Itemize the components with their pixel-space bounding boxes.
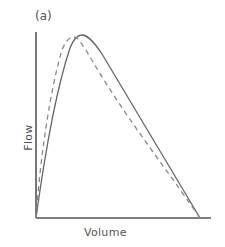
solid-curve — [36, 35, 200, 218]
dashed-curve — [36, 37, 200, 218]
panel-label: (a) — [35, 9, 52, 23]
x-axis-label: Volume — [84, 226, 127, 239]
y-axis-label: Flow — [22, 118, 35, 158]
flow-volume-chart: (a) Flow Volume — [0, 0, 225, 247]
